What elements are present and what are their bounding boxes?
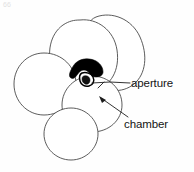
chamber-group xyxy=(14,15,145,160)
label-aperture: aperture xyxy=(131,78,173,90)
figure-container: 66 xyxy=(0,0,194,172)
label-chamber: chamber xyxy=(124,119,168,131)
chamber-bottom xyxy=(44,108,98,160)
aperture-opening xyxy=(82,76,90,85)
